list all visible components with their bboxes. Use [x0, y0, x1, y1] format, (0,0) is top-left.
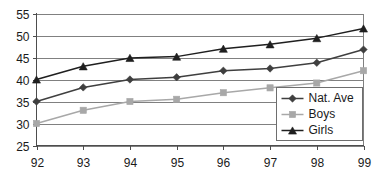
marker-diamond	[80, 84, 87, 91]
legend-label: Boys	[309, 107, 336, 121]
marker-diamond	[33, 98, 40, 105]
x-tick-label-99: 99	[358, 156, 372, 170]
marker-square	[33, 120, 39, 126]
marker-triangle	[33, 76, 41, 83]
x-tick-label-94: 94	[124, 156, 138, 170]
y-tick-label-40: 40	[16, 74, 30, 88]
y-tick-label-25: 25	[16, 140, 30, 154]
legend-label: Nat. Ave	[309, 91, 354, 105]
marker-diamond	[220, 67, 227, 74]
y-tick-label-35: 35	[16, 96, 30, 110]
x-tick-label-92: 92	[31, 156, 45, 170]
legend: Nat. AveBoysGirls	[277, 88, 363, 141]
line-chart: 253035404550559293949596979899Nat. AveBo…	[0, 0, 374, 182]
marker-square	[314, 80, 320, 86]
y-tick-label-30: 30	[16, 118, 30, 132]
x-axis-ticks: 9293949596979899	[31, 146, 372, 170]
x-tick-label-97: 97	[264, 156, 278, 170]
marker-square	[174, 96, 180, 102]
marker-diamond	[126, 76, 133, 83]
marker-square	[127, 98, 133, 104]
marker-diamond	[266, 65, 273, 72]
x-tick-label-96: 96	[217, 156, 231, 170]
y-tick-label-50: 50	[16, 30, 30, 44]
marker-square	[80, 107, 86, 113]
y-tick-label-55: 55	[16, 8, 30, 22]
marker-diamond	[173, 74, 180, 81]
y-tick-label-45: 45	[16, 52, 30, 66]
marker-square	[360, 68, 366, 74]
marker-diamond	[360, 46, 367, 53]
y-axis-ticks: 25303540455055	[16, 8, 36, 154]
legend-label: Girls	[309, 123, 334, 137]
marker-square	[220, 90, 226, 96]
marker-square	[267, 85, 273, 91]
marker-square	[289, 111, 295, 117]
x-tick-label-95: 95	[171, 156, 185, 170]
x-tick-label-93: 93	[77, 156, 91, 170]
marker-diamond	[313, 59, 320, 66]
chart-canvas: 253035404550559293949596979899Nat. AveBo…	[0, 0, 374, 182]
x-tick-label-98: 98	[311, 156, 325, 170]
